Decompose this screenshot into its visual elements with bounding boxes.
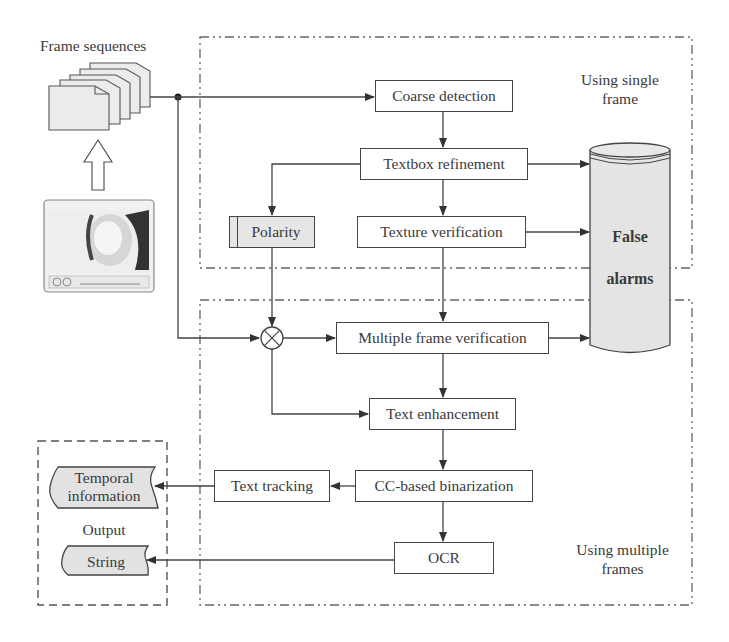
temporal-information-label: Temporal information bbox=[52, 469, 156, 505]
false-alarms-label: False alarms bbox=[590, 228, 670, 288]
polarity-label: Polarity bbox=[251, 223, 300, 241]
frame-stack-icon bbox=[49, 63, 150, 130]
single-frame-label-line1: Using single bbox=[565, 70, 675, 89]
polarity-side-bar bbox=[237, 217, 238, 247]
false-alarms-line2: alarms bbox=[590, 270, 670, 288]
coarse-detection-node: Coarse detection bbox=[375, 80, 513, 112]
polarity-node: Polarity bbox=[229, 216, 315, 248]
string-label: String bbox=[64, 553, 148, 571]
false-alarms-line1: False bbox=[590, 228, 670, 246]
text-enhancement-node: Text enhancement bbox=[369, 398, 516, 430]
multiplier-icon bbox=[261, 327, 283, 349]
multiple-frames-label-line1: Using multiple bbox=[560, 540, 685, 559]
cc-based-binarization-node: CC-based binarization bbox=[355, 470, 533, 502]
temporal-line2: information bbox=[52, 487, 156, 505]
text-tracking-node: Text tracking bbox=[214, 470, 330, 502]
output-label: Output bbox=[52, 521, 156, 539]
multiple-frame-verification-node: Multiple frame verification bbox=[336, 322, 549, 354]
multiple-frames-region-label: Using multiple frames bbox=[560, 540, 685, 579]
single-frame-region-label: Using single frame bbox=[565, 70, 675, 109]
single-frame-label-line2: frame bbox=[565, 89, 675, 108]
video-thumbnail bbox=[44, 200, 154, 292]
textbox-refinement-node: Textbox refinement bbox=[360, 148, 528, 180]
texture-verification-node: Texture verification bbox=[357, 216, 526, 248]
multiple-frames-label-line2: frames bbox=[560, 559, 685, 578]
temporal-line1: Temporal bbox=[52, 469, 156, 487]
ocr-node: OCR bbox=[394, 542, 494, 574]
frame-sequences-label: Frame sequences bbox=[40, 38, 146, 54]
up-arrow-icon bbox=[84, 140, 112, 190]
